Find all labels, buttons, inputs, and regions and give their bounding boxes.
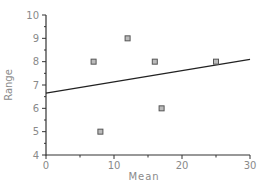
y-tick-label: 5 (33, 126, 39, 137)
y-tick-label: 8 (33, 56, 39, 67)
y-axis-label: Range (3, 69, 14, 101)
scatter-chart: 456789100102030 Mean Range (0, 0, 264, 187)
data-point-marker (159, 106, 164, 111)
regression-line (46, 59, 250, 93)
x-tick-label: 30 (244, 160, 257, 171)
y-tick-label: 4 (33, 150, 39, 161)
data-point-marker (125, 36, 130, 41)
data-point-marker (98, 129, 103, 134)
y-tick-label: 7 (33, 80, 39, 91)
trend-line (46, 59, 250, 93)
data-point-marker (152, 59, 157, 64)
x-tick-label: 20 (176, 160, 189, 171)
x-axis-label: Mean (128, 171, 159, 182)
x-tick-label: 0 (43, 160, 49, 171)
data-points (91, 36, 218, 134)
x-tick-label: 10 (108, 160, 121, 171)
chart-canvas: 456789100102030 Mean Range (0, 0, 264, 187)
data-point-marker (91, 59, 96, 64)
y-tick-label: 9 (33, 33, 39, 44)
data-point-marker (214, 59, 219, 64)
y-tick-label: 10 (26, 10, 39, 21)
axes (46, 15, 250, 156)
y-tick-label: 6 (33, 103, 39, 114)
